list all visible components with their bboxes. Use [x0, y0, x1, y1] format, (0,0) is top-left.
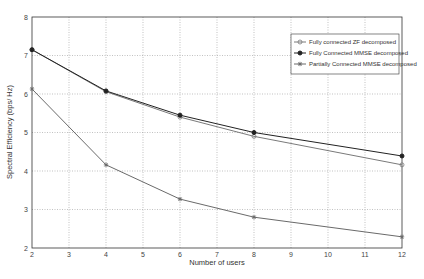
- line-chart: 23456789101112 2345678 Number of users S…: [0, 0, 424, 279]
- x-tick-label: 11: [361, 251, 368, 258]
- x-axis-label: Number of users: [189, 258, 245, 267]
- legend-label: Fully connected ZF decomposed: [309, 39, 396, 45]
- x-tick-label: 9: [289, 251, 293, 258]
- x-tick-label: 5: [141, 251, 145, 258]
- x-tick-label: 4: [104, 251, 108, 258]
- y-axis-label: Spectral Efficiency (bps/ Hz): [5, 84, 14, 179]
- y-axis-ticks: 2345678: [24, 14, 28, 252]
- y-tick-label: 2: [24, 245, 28, 252]
- y-tick-label: 3: [24, 206, 28, 213]
- x-tick-label: 3: [67, 251, 71, 258]
- legend-label: Partially Connected MMSE decomposed: [309, 61, 417, 67]
- x-tick-label: 2: [30, 251, 34, 258]
- y-tick-label: 7: [24, 52, 28, 59]
- legend-item: Partially Connected MMSE decomposed: [294, 61, 417, 67]
- legend-item: Fully connected ZF decomposed: [294, 39, 396, 45]
- x-axis-ticks: 23456789101112: [30, 251, 406, 258]
- legend: Fully connected ZF decomposedFully Conne…: [291, 34, 417, 74]
- x-tick-label: 12: [398, 251, 406, 258]
- y-tick-label: 4: [24, 168, 28, 175]
- legend-item: Fully Connected MMSE decomposed: [294, 50, 408, 56]
- x-tick-label: 6: [178, 251, 182, 258]
- y-tick-label: 6: [24, 91, 28, 98]
- y-tick-label: 5: [24, 129, 28, 136]
- legend-label: Fully Connected MMSE decomposed: [309, 50, 408, 56]
- y-tick-label: 8: [24, 14, 28, 21]
- x-tick-label: 7: [215, 251, 219, 258]
- x-tick-label: 8: [252, 251, 256, 258]
- x-tick-label: 10: [324, 251, 332, 258]
